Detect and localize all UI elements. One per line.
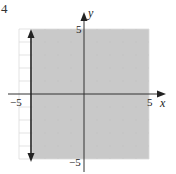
- x-max-label: 5: [147, 96, 153, 108]
- y-max-label: 5: [76, 23, 82, 35]
- y-axis-label: y: [87, 6, 94, 20]
- coordinate-plane: y x 5 −5 −5 5: [0, 0, 176, 174]
- x-min-label: −5: [10, 96, 22, 108]
- x-axis-label: x: [159, 96, 166, 110]
- y-min-label: −5: [69, 156, 81, 168]
- y-axis-arrow-icon: [81, 12, 88, 21]
